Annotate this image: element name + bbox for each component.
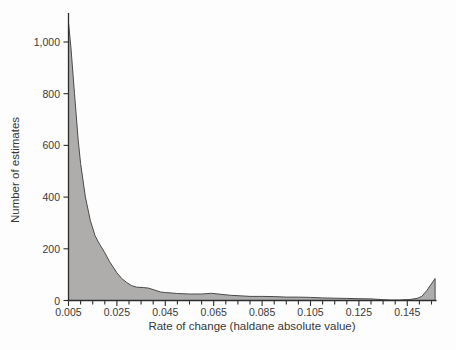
- x-tick-label: 0.085: [249, 306, 275, 318]
- y-axis-title: Number of estimates: [9, 117, 21, 223]
- x-tick-label: 0.045: [152, 306, 178, 318]
- y-tick-label: 0: [10, 295, 60, 307]
- distribution-area: [69, 23, 436, 301]
- y-tick-label: 1,000: [10, 36, 60, 48]
- y-tick-label: 200: [10, 243, 60, 255]
- y-tick-label: 800: [10, 88, 60, 100]
- y-tick-label: 400: [10, 191, 60, 203]
- frequency-distribution-chart: Rate of change (haldane absolute value) …: [0, 0, 456, 350]
- x-tick-label: 0.065: [201, 306, 227, 318]
- x-tick-label: 0.105: [297, 306, 323, 318]
- plot-area: [0, 0, 456, 350]
- x-tick-label: 0.025: [104, 306, 130, 318]
- y-tick-label: 600: [10, 139, 60, 151]
- x-tick-label: 0.145: [394, 306, 420, 318]
- x-tick-label: 0.005: [55, 306, 81, 318]
- x-tick-label: 0.125: [346, 306, 372, 318]
- x-axis-title: Rate of change (haldane absolute value): [148, 320, 355, 332]
